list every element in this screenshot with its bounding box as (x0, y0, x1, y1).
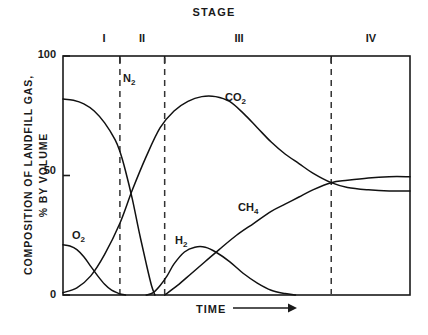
axis-ticks (63, 56, 331, 295)
curve-h2 (146, 247, 295, 295)
curve-ch4 (165, 177, 410, 295)
axes-frame (63, 56, 410, 295)
curve-co2 (63, 96, 410, 293)
curve-n2 (63, 99, 155, 295)
chart-figure: STAGE I II III IV COMPOSITION OF LANDFIL… (0, 0, 428, 335)
data-curves (63, 96, 410, 295)
curve-o2 (63, 245, 125, 295)
time-arrow-icon (233, 304, 297, 313)
plot-area (0, 0, 428, 335)
